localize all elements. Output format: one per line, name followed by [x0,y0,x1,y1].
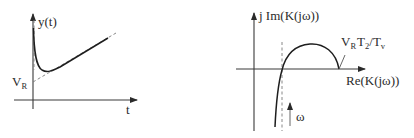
diagram-canvas: y(t) t VR j Im(K(jω)) Re(K(jω)) ω VRT2/T… [0,0,414,138]
left-x-axis-label: t [126,102,130,117]
intercept-tv-sub: v [381,41,386,51]
vr-label-sub: R [21,81,27,91]
real-axis-label: Re(K(jω)) [346,73,399,88]
intercept-label: VRT2/Tv [341,34,386,51]
omega-label: ω [296,109,305,124]
nyquist-locus-curve [275,44,339,127]
intercept-tv: T [373,34,381,49]
left-y-axis-label: y(t) [38,14,57,29]
right-plot: j Im(K(jω)) Re(K(jω)) ω VRT2/Tv [236,8,399,131]
left-plot: y(t) t VR [12,14,137,117]
intercept-v-sub: R [350,41,356,51]
step-response-curve [34,28,109,71]
intercept-leader-line [339,55,345,69]
intercept-t2: T [357,34,365,49]
vr-label: VR [12,74,27,91]
imaginary-axis-label: j Im(K(jω)) [258,8,319,23]
